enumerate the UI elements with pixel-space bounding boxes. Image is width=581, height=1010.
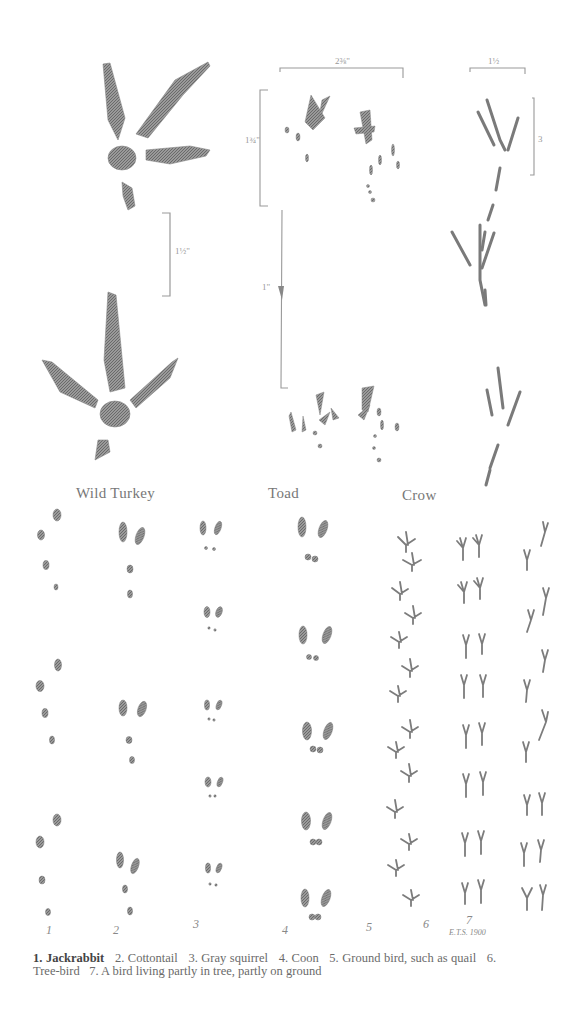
artist-signature: E.T.S. 1900	[449, 928, 486, 937]
caption-num-3: 3.	[188, 951, 197, 965]
toad-stride-label: 1"	[262, 282, 270, 292]
crow-tracks	[452, 100, 520, 485]
bird-tracks	[387, 522, 549, 910]
caption-num-5: 5.	[329, 951, 338, 965]
coon-tracks	[298, 517, 335, 920]
caption-num-4: 4.	[279, 951, 288, 965]
caption-text-6: Tree-bird	[33, 964, 80, 978]
crow-bracket	[470, 68, 534, 175]
caption-text-2: Cottontail	[128, 951, 178, 965]
caption-text-7: A bird living partly in tree, partly on …	[101, 964, 321, 978]
caption-num-1: 1.	[33, 951, 42, 965]
partial-tree-bird-tracks	[521, 522, 549, 910]
caption-num-6: 6.	[487, 951, 496, 965]
crow-width-label: 1½	[488, 56, 499, 66]
caption-text-4: Coon	[292, 951, 319, 965]
label-crow: Crow	[402, 487, 437, 504]
figure-caption: 1. Jackrabbit 2. Cottontail 3. Gray squi…	[33, 952, 496, 978]
column-number-6: 6	[423, 917, 429, 932]
crow-height-label: 3	[538, 134, 543, 144]
column-number-5: 5	[366, 920, 372, 935]
column-number-1: 1	[46, 923, 52, 938]
caption-text-3: Gray squirrel	[201, 951, 268, 965]
caption-text-5: Ground bird, such as quail	[342, 951, 476, 965]
cottontail-tracks	[117, 522, 149, 915]
tree-bird-tracks	[457, 535, 486, 904]
ground-bird-tracks	[387, 532, 421, 906]
toad-height-label: 1¾"	[245, 135, 260, 145]
caption-num-2: 2.	[115, 951, 124, 965]
track-illustration	[0, 0, 581, 1010]
column-number-4: 4	[282, 923, 288, 938]
gray-squirrel-tracks	[200, 520, 224, 886]
turkey-bracket	[162, 213, 170, 296]
label-wild-turkey: Wild Turkey	[76, 485, 155, 502]
label-toad: Toad	[268, 485, 299, 502]
turkey-gap-label: 1½"	[175, 246, 190, 256]
jackrabbit-tracks	[36, 509, 62, 916]
toad-bracket	[260, 68, 403, 388]
column-number-3: 3	[193, 917, 199, 932]
column-number-7: 7	[466, 913, 472, 928]
turkey-track-lower	[42, 292, 178, 460]
column-number-2: 2	[113, 923, 119, 938]
toad-tracks	[285, 95, 400, 462]
caption-text-1: Jackrabbit	[46, 951, 104, 965]
caption-num-7: 7.	[89, 964, 98, 978]
turkey-track-upper	[103, 62, 210, 210]
toad-width-label: 2⅜"	[335, 56, 350, 66]
